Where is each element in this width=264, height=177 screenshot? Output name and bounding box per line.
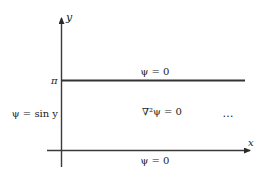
continuation-ellipsis: … [223, 107, 234, 120]
laplace-equation: ∇²ψ = 0 [142, 106, 182, 117]
y-axis-label: y [65, 11, 73, 24]
x-axis-label: x [248, 137, 254, 148]
left-boundary-condition: ψ = sin y [12, 108, 59, 119]
boundary-value-diagram: y x π ψ = 0 ψ = 0 ψ = sin y ∇²ψ = 0 … [0, 0, 264, 177]
top-boundary-condition: ψ = 0 [141, 66, 170, 77]
pi-tick-label: π [50, 75, 58, 86]
bottom-boundary-condition: ψ = 0 [141, 155, 170, 166]
